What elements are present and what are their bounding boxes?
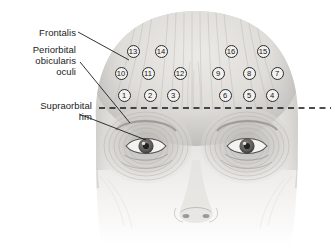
injection-site-marker-9[interactable]: 9 [212, 67, 225, 80]
injection-site-marker-3[interactable]: 3 [167, 89, 180, 102]
injection-site-marker-5[interactable]: 5 [243, 89, 256, 102]
injection-site-marker-11[interactable]: 11 [142, 67, 155, 80]
injection-site-marker-14[interactable]: 14 [155, 45, 168, 58]
injection-site-marker-1[interactable]: 1 [118, 89, 131, 102]
injection-site-marker-16[interactable]: 16 [225, 45, 238, 58]
injection-site-marker-10[interactable]: 10 [115, 67, 128, 80]
injection-site-marker-12[interactable]: 12 [174, 67, 187, 80]
injection-site-marker-15[interactable]: 15 [257, 45, 270, 58]
injection-site-marker-4[interactable]: 4 [266, 89, 279, 102]
injection-site-marker-8[interactable]: 8 [243, 67, 256, 80]
label-supraorbital: Supraorbital rim [6, 100, 92, 122]
label-frontalis: Frontalis [6, 27, 76, 38]
injection-site-marker-7[interactable]: 7 [271, 67, 284, 80]
injection-site-marker-2[interactable]: 2 [144, 89, 157, 102]
right-periorbital-region [201, 108, 293, 184]
left-periorbital-region [100, 108, 192, 184]
anatomical-figure: Frontalis Periorbital obicularis oculi S… [0, 0, 332, 246]
head-form [85, 0, 308, 246]
injection-site-marker-13[interactable]: 13 [127, 45, 140, 58]
injection-site-marker-6[interactable]: 6 [219, 89, 232, 102]
label-periorbital: Periorbital obicularis oculi [0, 44, 76, 78]
